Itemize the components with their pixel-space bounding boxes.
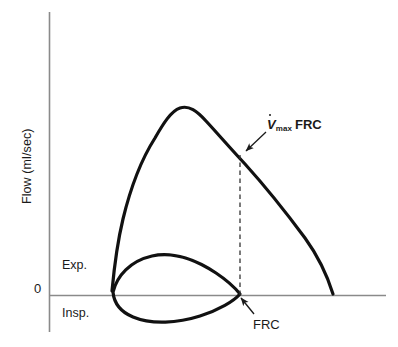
vmax-frc-arrow <box>246 132 266 151</box>
vmax-suffix: FRC <box>295 117 322 132</box>
vmax-frc-annotation-label: VmaxFRC <box>267 118 322 133</box>
plot-canvas <box>0 0 398 347</box>
vmax-subscript: max <box>276 124 292 133</box>
expiration-region-label: Exp. <box>62 259 87 272</box>
maximal-expiratory-curve <box>112 107 333 294</box>
vmax-symbol-letter: V <box>267 117 276 132</box>
y-axis-title: Flow (ml/sec) <box>21 106 34 226</box>
inspiration-region-label: Insp. <box>62 307 89 320</box>
zero-tick-label: 0 <box>34 282 41 295</box>
flow-volume-loop-figure: Flow (ml/sec) 0 Exp. Insp. VmaxFRC FRC <box>0 0 398 347</box>
frc-annotation-label: FRC <box>253 318 280 331</box>
tidal-breathing-loop <box>113 255 240 322</box>
vmax-symbol: V <box>267 118 276 131</box>
frc-arrow <box>241 298 254 314</box>
